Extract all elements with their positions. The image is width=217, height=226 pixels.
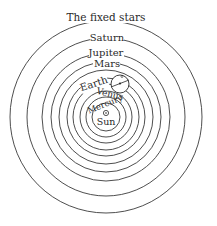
label-jupiter: Jupiter [88,47,124,58]
label-saturn: Saturn [90,32,125,43]
label-mars: Mars [94,58,120,69]
label-fixed-stars: The fixed stars [67,11,146,23]
sun-symbol-dot [105,112,107,114]
orbit-diagram-svg: The fixed stars Saturn Jupiter Mars Eart… [0,0,217,226]
label-sun: Sun [97,116,116,127]
earth-dot-icon [119,82,121,84]
earth-epicycle [111,75,129,93]
heliocentric-diagram: The fixed stars Saturn Jupiter Mars Eart… [0,0,217,226]
